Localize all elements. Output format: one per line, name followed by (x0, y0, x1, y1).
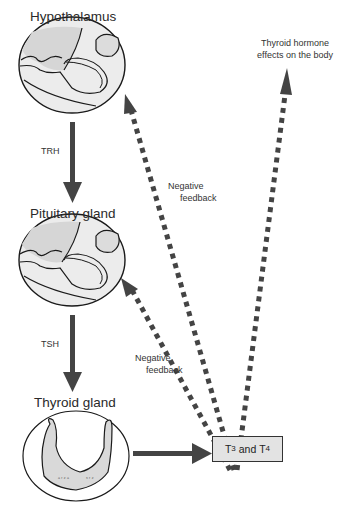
secretion-arrow (133, 443, 212, 464)
feedback-arrow-hypothalamus (124, 94, 234, 470)
pituitary-label: Pituitary gland (30, 206, 116, 221)
tsh-label: TSH (41, 339, 59, 350)
negative-feedback-upper-line1: Negative (168, 181, 204, 192)
hypothalamus-label: Hypothalamus (30, 9, 116, 24)
svg-text:ˢ ʳ ᶻ: ˢ ʳ ᶻ (86, 475, 94, 481)
and-text: and (236, 443, 259, 455)
effects-arrow (237, 68, 292, 470)
pituitary-illustration (19, 214, 125, 306)
hypothalamus-illustration (19, 17, 125, 113)
t4-text: T (259, 443, 265, 455)
effects-label-line2: effects on the body (245, 50, 345, 61)
effects-label-line1: Thyroid hormone (245, 38, 345, 49)
trh-arrow (63, 122, 82, 203)
negative-feedback-lower-line1: Negative (135, 353, 171, 364)
t3-t4-box: T3 and T4 (212, 436, 283, 462)
thyroid-illustration: ᵃ ʳ ᶻ ᵃ ˢ ʳ ᶻ (23, 411, 129, 501)
svg-text:ᵃ ʳ ᶻ ᵃ: ᵃ ʳ ᶻ ᵃ (58, 475, 69, 481)
negative-feedback-lower-line2: feedback (146, 365, 183, 376)
thyroid-label: Thyroid gland (34, 395, 116, 410)
negative-feedback-upper-line2: feedback (180, 193, 217, 204)
diagram-canvas: ᵃ ʳ ᶻ ᵃ ˢ ʳ ᶻ (0, 0, 346, 509)
trh-label: TRH (41, 146, 60, 157)
tsh-arrow (63, 315, 82, 392)
